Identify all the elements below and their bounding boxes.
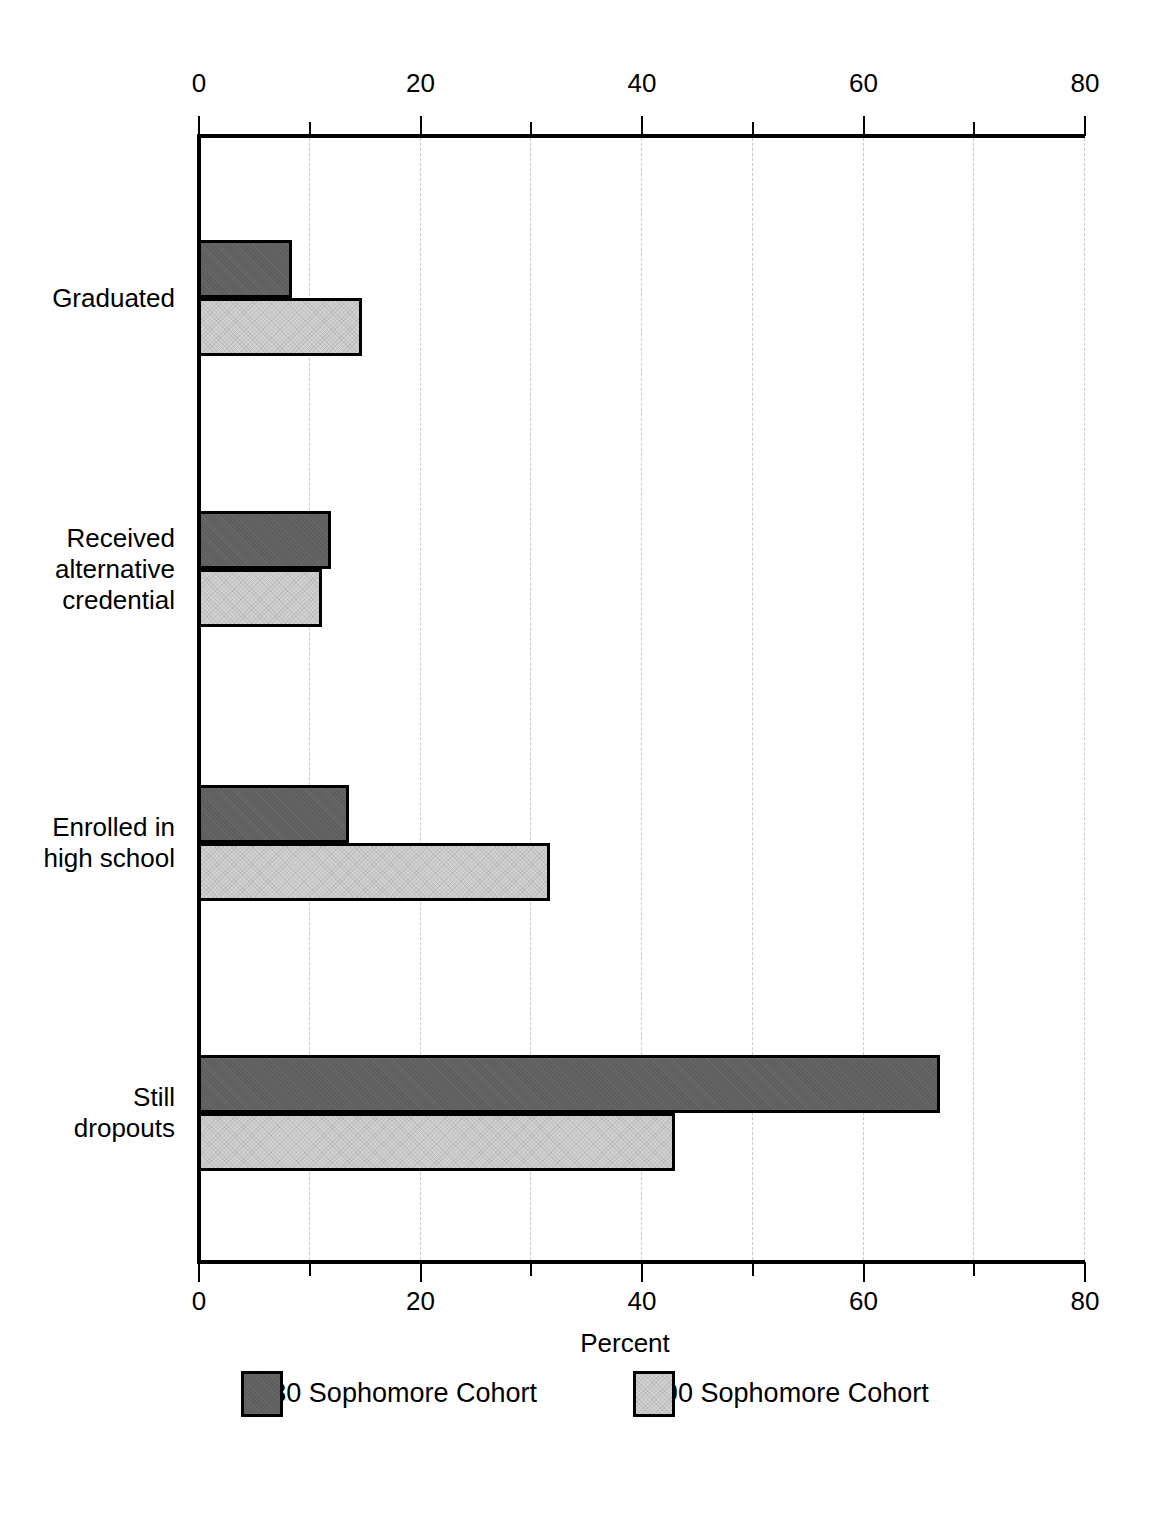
gridline-minor-70 (973, 138, 975, 1260)
x-tick-label-top-0: 0 (159, 68, 239, 98)
x-tick-label-top-60: 60 (824, 68, 904, 98)
bar-1980-still-dropouts (198, 1055, 940, 1113)
category-label-graduated: Graduated (0, 283, 175, 314)
category-label-line: high school (0, 843, 175, 874)
chart-legend: 1980 Sophomore Cohort 1990 Sophomore Coh… (0, 1378, 1170, 1409)
x-axis-title: Percent (0, 1328, 1170, 1359)
x-minor-tick-30 (530, 1262, 532, 1276)
legend-swatch-1980 (241, 1371, 283, 1417)
category-label-received-alternative-credential: Receivedalternativecredential (0, 523, 175, 616)
bar-1980-enrolled-in-high-school (198, 785, 349, 843)
category-label-line: Received (0, 523, 175, 554)
bar-chart: 002020404060608080 Percent GraduatedRece… (0, 0, 1170, 1521)
category-label-enrolled-in-high-school: Enrolled inhigh school (0, 812, 175, 874)
x-tick-label-top-40: 40 (602, 68, 682, 98)
x-axis-title-text: Percent (580, 1328, 670, 1358)
x-tick-80 (1084, 1262, 1086, 1282)
category-label-still-dropouts: Stilldropouts (0, 1082, 175, 1144)
x-tick-40 (641, 1262, 643, 1282)
bar-1980-received-alternative-credential (198, 511, 331, 569)
bar-1990-still-dropouts (198, 1113, 675, 1171)
x-tick-40 (641, 116, 643, 136)
gridline-80 (1084, 138, 1086, 1260)
legend-item-1980: 1980 Sophomore Cohort (241, 1378, 537, 1409)
x-tick-label-bot-60: 60 (824, 1286, 904, 1316)
legend-label-1990: 1990 Sophomore Cohort (633, 1378, 929, 1409)
category-label-line: dropouts (0, 1113, 175, 1144)
x-tick-label-bot-0: 0 (159, 1286, 239, 1316)
bar-1990-received-alternative-credential (198, 569, 322, 627)
x-tick-0 (198, 1262, 200, 1282)
x-tick-20 (420, 1262, 422, 1282)
x-minor-tick-10 (309, 1262, 311, 1276)
x-minor-tick-30 (530, 122, 532, 136)
x-tick-label-bot-20: 20 (381, 1286, 461, 1316)
x-tick-60 (863, 116, 865, 136)
x-tick-label-bot-80: 80 (1045, 1286, 1125, 1316)
category-label-line: credential (0, 585, 175, 616)
legend-label-1980: 1980 Sophomore Cohort (241, 1378, 537, 1409)
bar-1990-graduated (198, 298, 362, 356)
x-tick-20 (420, 116, 422, 136)
x-minor-tick-50 (752, 122, 754, 136)
x-minor-tick-10 (309, 122, 311, 136)
bar-1980-graduated (198, 240, 292, 298)
x-minor-tick-70 (973, 122, 975, 136)
category-label-line: alternative (0, 554, 175, 585)
x-tick-80 (1084, 116, 1086, 136)
x-tick-label-top-80: 80 (1045, 68, 1125, 98)
x-tick-60 (863, 1262, 865, 1282)
category-label-line: Still (0, 1082, 175, 1113)
category-label-line: Enrolled in (0, 812, 175, 843)
legend-item-1990: 1990 Sophomore Cohort (633, 1378, 929, 1409)
category-label-line: Graduated (0, 283, 175, 314)
legend-swatch-1990 (633, 1371, 675, 1417)
x-minor-tick-70 (973, 1262, 975, 1276)
x-tick-label-top-20: 20 (381, 68, 461, 98)
x-tick-label-bot-40: 40 (602, 1286, 682, 1316)
x-minor-tick-50 (752, 1262, 754, 1276)
bar-1990-enrolled-in-high-school (198, 843, 550, 901)
x-tick-0 (198, 116, 200, 136)
